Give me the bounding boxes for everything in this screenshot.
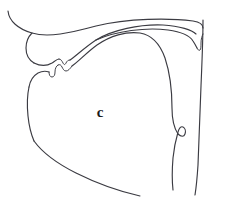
vocal-tract-figure: c <box>0 0 227 210</box>
sound-label: c <box>92 104 108 120</box>
lower-teeth-outline <box>49 65 58 77</box>
soft-palate-velum-line <box>96 29 197 48</box>
upper-lip-inner-line <box>34 59 59 65</box>
sagittal-vocal-tract-drawing <box>0 0 227 210</box>
jaw-front-line <box>27 87 34 141</box>
jaw-bottom-line <box>34 141 140 196</box>
lower-lip-outline <box>29 71 49 87</box>
epiglottis-outline <box>172 127 185 190</box>
tongue-tip-outline <box>58 65 72 71</box>
upper-teeth-outline <box>59 59 70 65</box>
upper-lip-outline <box>26 33 34 63</box>
tongue-body-outline <box>72 33 178 134</box>
